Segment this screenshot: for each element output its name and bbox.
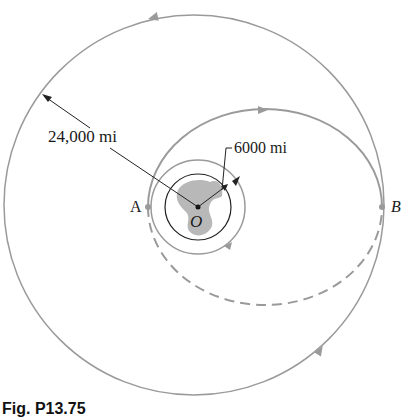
center-label: O [190,212,202,232]
outer-radius-arrow-line [44,96,90,128]
outer-radius-label: 24,000 mi [48,127,117,147]
inner-radius-leader [222,148,232,190]
point-a-marker [145,204,151,210]
point-b-marker [379,204,385,210]
inner-radius-label: 6000 mi [234,139,287,157]
figure-caption: Fig. P13.75 [2,400,86,418]
direction-arrow-icon [258,106,268,114]
point-a-label: A [130,198,142,216]
direction-arrow-icon [147,12,159,23]
point-b-label: B [391,198,401,216]
